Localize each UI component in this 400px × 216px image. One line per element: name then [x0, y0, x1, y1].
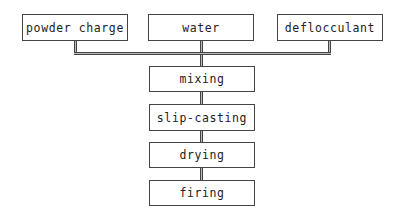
step-box-slip-casting: slip-casting — [149, 104, 255, 131]
box-label: firing — [179, 186, 224, 200]
step-box-firing: firing — [149, 180, 255, 206]
box-label: water — [182, 21, 220, 35]
step-box-drying: drying — [149, 142, 255, 168]
box-label: drying — [179, 148, 224, 162]
box-label: mixing — [179, 72, 224, 86]
box-label: slip-casting — [157, 111, 247, 125]
connector-mixing-slip — [200, 92, 203, 104]
input-box-water: water — [148, 14, 254, 41]
connector-slip-drying — [200, 131, 203, 142]
connector-merge-bar — [74, 52, 331, 55]
box-label: powder charge — [26, 21, 124, 35]
connector-drying-firing — [200, 168, 203, 180]
box-label: deflocculant — [285, 21, 375, 35]
input-box-powder-charge: powder charge — [22, 14, 128, 41]
input-box-deflocculant: deflocculant — [277, 14, 383, 41]
step-box-mixing: mixing — [149, 66, 255, 92]
